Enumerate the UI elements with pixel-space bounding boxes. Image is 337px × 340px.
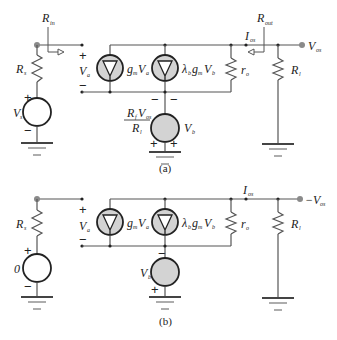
svg-text:l: l xyxy=(299,71,301,77)
circuit-diagram: R in R s + V s − + V a xyxy=(0,0,337,340)
caption-b: (b) xyxy=(159,315,172,328)
svg-text:l: l xyxy=(299,225,301,231)
svg-text:−: − xyxy=(24,279,32,294)
svg-text:b: b xyxy=(212,224,215,230)
svg-text:b: b xyxy=(188,70,191,76)
panel-b: R s + 0 − + V a − g m V xyxy=(14,183,326,328)
panel-a: R in R s + V s − + V a xyxy=(13,11,322,175)
rl-resistor: R l xyxy=(262,197,301,310)
gm-va-current-source: g m V a xyxy=(97,45,149,94)
svg-text:b: b xyxy=(188,224,191,230)
svg-text:λ: λ xyxy=(181,62,187,76)
rin-label: R xyxy=(41,11,50,25)
svg-text:o: o xyxy=(246,71,249,77)
gm-va-current-source: g m V a xyxy=(97,199,149,248)
arrow-right-icon xyxy=(58,49,64,55)
vos-node xyxy=(299,42,305,48)
svg-text:m: m xyxy=(198,70,203,76)
rout-probe: R out I os xyxy=(244,11,273,55)
svg-text:os: os xyxy=(146,114,152,120)
svg-text:l: l xyxy=(140,129,142,135)
arrow-left-icon xyxy=(248,49,254,55)
svg-text:b: b xyxy=(148,274,151,280)
svg-text:out: out xyxy=(265,20,273,26)
svg-text:R: R xyxy=(290,63,299,77)
svg-text:os: os xyxy=(248,191,254,197)
svg-text:−: − xyxy=(170,92,178,107)
svg-text:a: a xyxy=(146,224,149,230)
caption-a: (a) xyxy=(159,162,172,175)
svg-text:R: R xyxy=(256,11,265,25)
svg-text:a: a xyxy=(87,227,90,233)
svg-text:os: os xyxy=(320,201,326,207)
svg-text:s: s xyxy=(24,225,27,231)
svg-text:−: − xyxy=(151,92,159,107)
svg-text:+: + xyxy=(79,202,87,217)
rl-resistor: R l xyxy=(262,43,301,156)
svg-text:+: + xyxy=(151,282,159,297)
svg-text:a: a xyxy=(146,70,149,76)
svg-text:b: b xyxy=(212,70,215,76)
svg-text:R: R xyxy=(126,106,135,120)
svg-text:R: R xyxy=(15,62,24,76)
svg-text:+: + xyxy=(170,136,178,151)
svg-text:λ: λ xyxy=(181,216,187,230)
svg-text:os: os xyxy=(250,37,256,43)
vb-voltage-source: − − V b + + R f V os R l xyxy=(124,92,195,164)
svg-text:R: R xyxy=(290,217,299,231)
ro-resistor: r o xyxy=(226,197,249,246)
svg-text:s: s xyxy=(24,70,27,76)
svg-text:R: R xyxy=(15,217,24,231)
rin-probe: R in xyxy=(41,11,64,55)
svg-text:os: os xyxy=(316,47,322,53)
svg-text:m: m xyxy=(198,224,203,230)
ro-resistor: r o xyxy=(226,43,249,92)
svg-text:0: 0 xyxy=(14,262,20,276)
svg-text:R: R xyxy=(131,121,140,135)
svg-text:b: b xyxy=(192,129,195,135)
vos-node xyxy=(297,196,303,202)
vb-voltage-source: − V b + xyxy=(140,246,181,309)
lambda-gm-vb-current-source: λ b g m V b xyxy=(152,43,215,114)
svg-text:a: a xyxy=(87,72,90,78)
svg-text:−: − xyxy=(24,123,32,138)
zero-voltage-source: + 0 − xyxy=(14,243,53,309)
svg-text:+: + xyxy=(150,136,158,151)
svg-text:+: + xyxy=(79,48,87,63)
svg-text:in: in xyxy=(50,20,55,26)
svg-text:o: o xyxy=(246,225,249,231)
vs-source: + V s − xyxy=(13,90,53,155)
